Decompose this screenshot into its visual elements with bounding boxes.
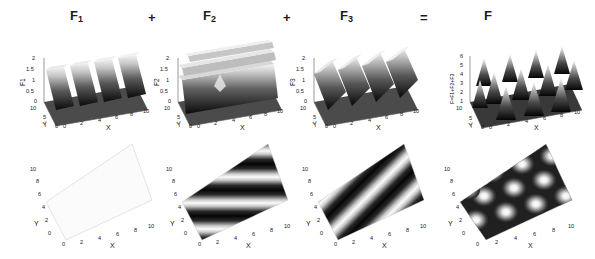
svg-text:8: 8 bbox=[130, 111, 133, 117]
z-axis-label-f2: F2 bbox=[153, 78, 160, 86]
svg-text:4: 4 bbox=[370, 235, 373, 241]
y-axis-label-fsum: Y bbox=[468, 121, 474, 129]
svg-text:0: 0 bbox=[320, 230, 323, 236]
svg-text:2: 2 bbox=[45, 217, 48, 223]
svg-text:4: 4 bbox=[98, 117, 101, 123]
svg-text:6: 6 bbox=[249, 114, 252, 120]
svg-text:2: 2 bbox=[214, 120, 217, 126]
svg-text:2: 2 bbox=[216, 239, 219, 245]
svg-text:2: 2 bbox=[80, 120, 83, 126]
svg-text:6: 6 bbox=[543, 115, 546, 121]
svg-text:2: 2 bbox=[460, 89, 463, 95]
svg-text:8: 8 bbox=[406, 227, 409, 233]
svg-text:0: 0 bbox=[334, 241, 337, 247]
svg-text:2: 2 bbox=[459, 217, 462, 223]
svg-text:8: 8 bbox=[552, 227, 555, 233]
svg-text:10: 10 bbox=[444, 166, 450, 172]
x-axis-label-fsum: X bbox=[534, 124, 539, 131]
svg-text:0.5: 0.5 bbox=[26, 88, 34, 94]
svg-text:8: 8 bbox=[270, 227, 273, 233]
z-axis-label-fsum: F=F1+F2+F3 bbox=[449, 73, 455, 104]
svg-text:2: 2 bbox=[302, 55, 305, 61]
svg-text:0: 0 bbox=[34, 98, 37, 104]
x-axis-label-fsum-2d: X bbox=[528, 242, 533, 249]
svg-text:10: 10 bbox=[568, 223, 574, 229]
svg-text:0: 0 bbox=[481, 124, 484, 130]
z-axis-ticks-f1: 2 1.5 1 0.5 0 bbox=[26, 55, 37, 104]
svg-text:0: 0 bbox=[168, 98, 171, 104]
z-axis-label-f3: F3 bbox=[289, 78, 296, 86]
heatmap-surface bbox=[306, 128, 441, 258]
surface-plot-f2: 2 1.5 1 0.5 0 F2 10 5 0 Y 0 2 4 6 8 10 X bbox=[152, 34, 292, 130]
svg-text:3: 3 bbox=[460, 80, 463, 86]
svg-text:4: 4 bbox=[514, 235, 517, 241]
y-axis-label-f2: Y bbox=[176, 120, 182, 128]
panel-title-f3: F3 bbox=[340, 8, 353, 24]
svg-text:2: 2 bbox=[352, 239, 355, 245]
svg-text:6: 6 bbox=[460, 53, 463, 59]
svg-text:4: 4 bbox=[368, 117, 371, 123]
y-axis-label-fsum-2d: Y bbox=[448, 220, 453, 227]
svg-text:6: 6 bbox=[388, 231, 391, 237]
operator-plus-2: + bbox=[283, 10, 291, 25]
z-axis-ticks-f2: 2 1.5 1 0.5 0 bbox=[160, 55, 171, 104]
svg-text:5: 5 bbox=[313, 114, 316, 120]
operator-plus-1: + bbox=[148, 10, 156, 25]
svg-text:0: 0 bbox=[184, 230, 187, 236]
y-axis-label-f1: Y bbox=[42, 120, 48, 128]
svg-text:6: 6 bbox=[116, 231, 119, 237]
svg-text:0: 0 bbox=[325, 123, 328, 129]
z-axis-ticks-fsum: 6 5 4 3 2 1 bbox=[460, 53, 463, 104]
svg-text:10: 10 bbox=[574, 109, 580, 115]
y-axis-label-f3: Y bbox=[312, 120, 318, 128]
svg-text:2: 2 bbox=[495, 239, 498, 245]
svg-text:1.5: 1.5 bbox=[160, 66, 168, 72]
svg-text:8: 8 bbox=[134, 227, 137, 233]
svg-text:6: 6 bbox=[385, 114, 388, 120]
svg-text:4: 4 bbox=[460, 71, 463, 77]
svg-text:10: 10 bbox=[164, 105, 170, 111]
panel-title-f2: F2 bbox=[203, 8, 216, 24]
svg-text:0.5: 0.5 bbox=[296, 88, 304, 94]
svg-text:6: 6 bbox=[452, 191, 455, 197]
svg-text:0: 0 bbox=[63, 123, 66, 129]
svg-text:8: 8 bbox=[36, 178, 39, 184]
svg-text:6: 6 bbox=[174, 191, 177, 197]
svg-text:0: 0 bbox=[198, 241, 201, 247]
svg-text:6: 6 bbox=[310, 191, 313, 197]
svg-text:2: 2 bbox=[166, 55, 169, 61]
heatmap-f3: 10 8 6 4 2 0 Y 0 2 4 6 8 10 X bbox=[286, 138, 430, 256]
svg-text:4: 4 bbox=[178, 204, 181, 210]
y-axis-label-f2-2d: Y bbox=[170, 220, 175, 227]
svg-text:4: 4 bbox=[234, 235, 237, 241]
figure-canvas: F1 + F2 + F3 = F bbox=[0, 0, 595, 259]
svg-text:10: 10 bbox=[166, 166, 172, 172]
x-axis-label-f1: X bbox=[106, 124, 111, 131]
svg-text:0: 0 bbox=[476, 241, 479, 247]
svg-text:2: 2 bbox=[317, 217, 320, 223]
svg-text:0: 0 bbox=[62, 241, 65, 247]
svg-text:8: 8 bbox=[172, 178, 175, 184]
svg-text:2: 2 bbox=[80, 239, 83, 245]
svg-text:10: 10 bbox=[277, 108, 283, 114]
panel-title-f1: F1 bbox=[70, 8, 83, 24]
svg-text:8: 8 bbox=[400, 111, 403, 117]
operator-equals: = bbox=[420, 10, 428, 25]
surface-plot-fsum: 6 5 4 3 2 1 F=F1+F2+F3 10 5 0 Y 0 2 4 6 … bbox=[424, 28, 592, 130]
svg-text:0: 0 bbox=[197, 123, 200, 129]
svg-text:4: 4 bbox=[42, 204, 45, 210]
svg-text:0: 0 bbox=[489, 124, 492, 130]
svg-text:5: 5 bbox=[43, 114, 46, 120]
svg-text:5: 5 bbox=[177, 114, 180, 120]
svg-text:2: 2 bbox=[350, 120, 353, 126]
svg-text:0: 0 bbox=[304, 98, 307, 104]
svg-text:4: 4 bbox=[232, 117, 235, 123]
z-axis-label-f1: F1 bbox=[19, 78, 26, 86]
x-axis-label-f3-2d: X bbox=[382, 242, 387, 249]
svg-text:4: 4 bbox=[456, 204, 459, 210]
surface-plot-f1: 2 1.5 1 0.5 0 F1 10 5 0 Y 0 2 4 6 8 10 bbox=[18, 34, 158, 130]
svg-text:1.5: 1.5 bbox=[26, 66, 34, 72]
svg-text:10: 10 bbox=[30, 166, 36, 172]
heatmap-f1: 10 8 6 4 2 0 Y 0 2 4 6 8 10 X bbox=[14, 138, 158, 256]
svg-text:0.5: 0.5 bbox=[160, 88, 168, 94]
